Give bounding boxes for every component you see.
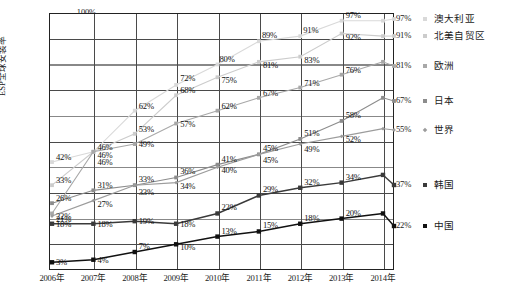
data-point-marker (257, 39, 261, 43)
point-label: 46% (97, 158, 112, 167)
point-label: 81% (263, 61, 278, 70)
data-point-marker (298, 34, 302, 38)
point-label: 36% (180, 167, 195, 176)
x-tick-2: 2008年 (113, 274, 157, 283)
data-point-marker (215, 234, 219, 238)
data-point-marker (257, 60, 261, 64)
data-point-marker (174, 181, 178, 185)
data-point-marker (133, 109, 137, 113)
point-label: 89% (262, 31, 277, 40)
point-label: 29% (263, 185, 278, 194)
data-point-marker (133, 142, 137, 146)
point-label: 62% (222, 102, 237, 111)
data-point-marker (174, 176, 178, 180)
point-label: 34% (180, 182, 195, 191)
point-label: 13% (222, 227, 237, 236)
data-point-marker (91, 188, 95, 192)
legend-value: 55% (396, 124, 420, 135)
x-tick-7: 2013年 (320, 274, 364, 283)
point-label: 20% (346, 209, 361, 218)
point-label: 72% (180, 74, 195, 83)
data-point-marker (91, 199, 95, 203)
x-tick-4: 2010年 (196, 274, 240, 283)
point-label: 71% (304, 79, 319, 88)
point-label: 80% (220, 55, 235, 64)
data-point-marker (50, 183, 54, 187)
point-label: 3% (56, 258, 67, 267)
legend-label: 欧洲 (434, 60, 454, 71)
point-label: 52% (346, 135, 361, 144)
point-label: 62% (139, 102, 154, 111)
legend-marker-square (423, 183, 427, 187)
point-label: 75% (222, 76, 237, 85)
point-label: 19% (139, 217, 154, 226)
point-label: 32% (304, 178, 319, 187)
point-label: 33% (139, 188, 154, 197)
legend-label: 世界 (434, 124, 454, 135)
point-label: 34% (346, 173, 361, 182)
point-label: 33% (56, 176, 71, 185)
point-label: 58% (346, 111, 361, 120)
point-label: 26% (56, 194, 71, 203)
data-point-marker (91, 258, 95, 262)
data-point-marker (50, 222, 54, 226)
point-label: 18% (56, 220, 71, 229)
point-label: 49% (304, 145, 319, 154)
data-point-marker (216, 75, 220, 79)
point-label: 27% (97, 200, 112, 209)
data-point-marker (298, 186, 302, 190)
point-label: 42% (56, 153, 71, 162)
data-point-marker (174, 122, 178, 126)
series-line (52, 21, 383, 162)
point-label: 10% (180, 243, 195, 252)
data-point-marker (174, 242, 178, 246)
point-label: 40% (222, 166, 237, 175)
data-point-marker (257, 193, 261, 197)
legend-value: 91% (396, 30, 420, 41)
x-tick-0: 2006年 (30, 274, 74, 283)
point-label: 67% (263, 89, 278, 98)
data-point-marker (298, 137, 302, 141)
data-point-marker (298, 222, 302, 226)
point-label: 22% (222, 203, 237, 212)
point-label: 91% (303, 26, 318, 35)
data-point-marker (216, 109, 220, 113)
point-label: 57% (180, 120, 195, 129)
point-label: 68% (180, 86, 195, 95)
legend: 97%澳大利亚91%北美自贸区81%欧洲67%日本55%世界37%韩国22%中国 (396, 0, 509, 301)
data-point-marker (257, 229, 261, 233)
legend-marker-square (423, 99, 427, 103)
point-label: 45% (263, 144, 278, 153)
legend-label: 日本 (434, 95, 454, 106)
point-label: 97% (346, 11, 361, 20)
point-label: 18% (180, 220, 195, 229)
point-label: 18% (97, 220, 112, 229)
x-tick-3: 2009年 (154, 274, 198, 283)
data-point-marker (133, 132, 137, 136)
data-point-marker (257, 96, 261, 100)
point-label: 7% (139, 242, 150, 251)
legend-value: 97% (396, 13, 420, 24)
data-point-marker (340, 73, 344, 77)
legend-value: 37% (396, 179, 420, 190)
data-point-marker (298, 55, 302, 59)
data-point-marker (50, 201, 54, 205)
point-label: 31% (97, 181, 112, 190)
data-point-marker (174, 222, 178, 226)
legend-value: 22% (396, 220, 420, 231)
data-point-marker (50, 260, 54, 264)
legend-marker-square (423, 17, 427, 21)
legend-value: 81% (396, 60, 420, 71)
legend-marker-diamond (423, 128, 428, 133)
data-point-marker (91, 150, 95, 154)
data-point-marker (133, 250, 137, 254)
point-label: 18% (304, 214, 319, 223)
chart-container: ESP全球安装率 100%80%60%40%20% 42%46%62%72%80… (0, 0, 509, 301)
point-label: 4% (97, 256, 108, 265)
legend-value: 67% (396, 95, 420, 106)
data-point-marker (339, 216, 343, 220)
point-label: 33% (139, 175, 154, 184)
data-point-marker (50, 160, 54, 164)
data-point-marker (91, 222, 95, 226)
x-tick-5: 2011年 (237, 274, 281, 283)
